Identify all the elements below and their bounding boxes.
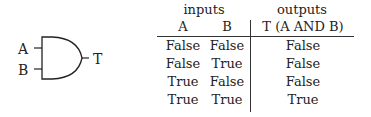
- row-1-b: True: [205, 56, 249, 72]
- row-0-t: False: [252, 38, 354, 54]
- row-3-b: True: [205, 92, 249, 108]
- header-rule: [157, 36, 354, 37]
- row-2-b: False: [205, 74, 249, 90]
- inputs-group-header: inputs: [160, 2, 248, 18]
- column-divider: [250, 20, 251, 112]
- header-b: B: [205, 19, 249, 35]
- row-0-a: False: [160, 38, 206, 54]
- row-1-a: False: [160, 56, 206, 72]
- row-2-t: False: [252, 74, 354, 90]
- header-a: A: [160, 19, 206, 35]
- output-t-label: T: [93, 52, 102, 66]
- input-a-label: A: [18, 42, 28, 56]
- row-3-a: True: [160, 92, 206, 108]
- outputs-group-header: outputs: [252, 2, 352, 18]
- header-t: T (A AND B): [252, 19, 354, 35]
- and-gate-symbol: [0, 0, 140, 117]
- input-b-label: B: [18, 63, 28, 77]
- row-3-t: True: [252, 92, 354, 108]
- row-2-a: True: [160, 74, 206, 90]
- row-0-b: False: [205, 38, 249, 54]
- row-1-t: False: [252, 56, 354, 72]
